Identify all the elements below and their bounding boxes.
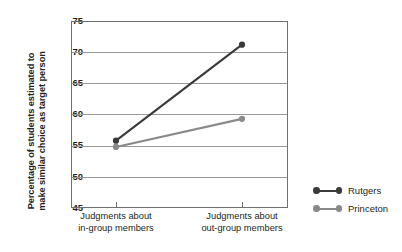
series-line-princeton [116,119,242,147]
series-line-rutgers [116,45,242,141]
data-point-princeton-1[interactable] [239,116,245,122]
legend-label-princeton: Princeton [348,204,388,214]
legend-label-rutgers: Rutgers [348,186,381,196]
series-rutgers [113,42,245,144]
legend-marker-rutgers [313,186,342,195]
legend-item-princeton[interactable]: Princeton [313,203,388,214]
data-point-rutgers-1[interactable] [239,42,245,48]
line-chart-figure: Percentage of students estimated to make… [0,0,402,252]
legend-item-rutgers[interactable]: Rutgers [313,185,388,196]
legend-marker-princeton [313,204,342,213]
data-point-princeton-0[interactable] [113,144,119,150]
data-series-layer [0,0,402,252]
data-point-rutgers-0[interactable] [113,138,119,144]
chart-legend: Rutgers Princeton [313,185,388,214]
series-princeton [113,116,245,150]
